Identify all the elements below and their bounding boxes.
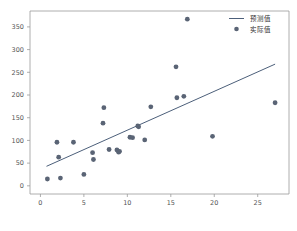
legend-label-actual: 实际值	[250, 25, 271, 34]
x-tick-label: 20	[210, 199, 218, 207]
y-tick-label: 50	[16, 159, 24, 167]
scatter-point	[142, 138, 147, 143]
scatter-point	[55, 140, 60, 145]
y-tick-label: 100	[12, 137, 24, 145]
y-tick-label: 150	[12, 114, 24, 122]
scatter-point	[58, 176, 63, 181]
plot-area-background	[30, 11, 289, 194]
scatter-point	[117, 149, 122, 154]
y-tick-label: 350	[12, 23, 24, 31]
scatter-point	[81, 172, 86, 177]
x-tick-label: 0	[38, 199, 42, 207]
scatter-point	[130, 135, 135, 140]
y-tick-label: 250	[12, 69, 24, 77]
scatter-point	[91, 157, 96, 162]
scatter-plot: 050100150200250300350 0510152025 预测值 实际值	[0, 0, 297, 231]
y-tick-label: 0	[20, 182, 24, 190]
scatter-point	[148, 104, 153, 109]
scatter-point	[107, 147, 112, 152]
legend-label-predicted: 预测值	[250, 14, 271, 23]
scatter-point	[181, 94, 186, 99]
scatter-point	[136, 124, 141, 129]
x-tick-label: 25	[254, 199, 262, 207]
scatter-point	[101, 121, 106, 126]
scatter-point	[174, 95, 179, 100]
scatter-point	[174, 64, 179, 69]
y-tick-label: 200	[12, 91, 24, 99]
scatter-point	[71, 140, 76, 145]
scatter-point	[185, 17, 190, 22]
scatter-point	[210, 134, 215, 139]
scatter-point	[90, 150, 95, 155]
scatter-point	[56, 155, 61, 160]
scatter-point	[273, 100, 278, 105]
x-tick-label: 10	[123, 199, 131, 207]
scatter-point	[101, 105, 106, 110]
y-tick-label: 300	[12, 46, 24, 54]
legend-dot-swatch	[234, 27, 239, 32]
x-tick-label: 15	[167, 199, 175, 207]
chart-figure: 050100150200250300350 0510152025 预测值 实际值	[0, 0, 297, 231]
scatter-point	[45, 177, 50, 182]
x-tick-label: 5	[82, 199, 86, 207]
